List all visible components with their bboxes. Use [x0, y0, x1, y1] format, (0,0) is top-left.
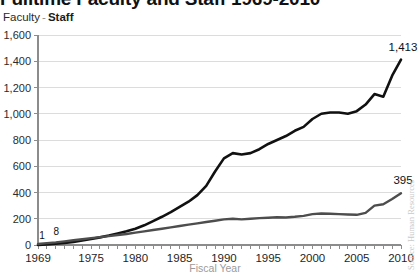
- y-tick-label: 400: [13, 187, 31, 199]
- x-tick-label: 2005: [344, 252, 370, 264]
- label-faculty-start: 1: [39, 230, 45, 241]
- y-tick-label: 1,600: [3, 29, 31, 41]
- source-note-wrapper: Source: Human Resources: [405, 138, 419, 278]
- x-tick-label: 1969: [25, 252, 51, 264]
- y-tick-label: 0: [25, 239, 31, 251]
- chart-plot: 02004006008001,0001,2001,4001,600 196919…: [0, 0, 419, 278]
- source-note: Source: Human Resources: [406, 180, 416, 270]
- label-staff-start: 8: [53, 226, 59, 237]
- chart-container: Fulltime Faculty and Staff 1969-2010 Fac…: [0, 0, 419, 278]
- y-tick-label: 600: [13, 160, 31, 172]
- x-tick-label: 1975: [78, 252, 104, 264]
- x-tick-label: 1995: [255, 252, 281, 264]
- x-tick-label: 1980: [123, 252, 149, 264]
- y-tick-label: 800: [13, 134, 31, 146]
- y-tick-label: 1,200: [3, 82, 31, 94]
- gridlines: [38, 35, 401, 219]
- label-faculty-end: 1,413: [389, 41, 418, 53]
- y-tick-label: 200: [13, 213, 31, 225]
- y-axis-labels: 02004006008001,0001,2001,4001,600: [3, 29, 31, 251]
- y-tick-label: 1,400: [3, 55, 31, 67]
- x-axis-title: Fiscal Year: [189, 262, 241, 274]
- data-point-labels: 1,41339518: [39, 41, 417, 241]
- y-tick-label: 1,000: [3, 108, 31, 120]
- x-tick-label: 2000: [300, 252, 326, 264]
